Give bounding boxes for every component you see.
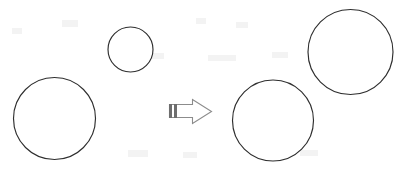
diagram-svg xyxy=(0,0,399,172)
arrow-tail-bar-2 xyxy=(174,104,177,118)
circle-right-upper xyxy=(308,10,393,95)
circle-left-large xyxy=(14,78,96,160)
circle-right-lower xyxy=(233,80,314,161)
diagram-canvas xyxy=(0,0,399,172)
circle-left-small xyxy=(108,27,153,72)
arrow-tail-bar-1 xyxy=(169,104,172,118)
